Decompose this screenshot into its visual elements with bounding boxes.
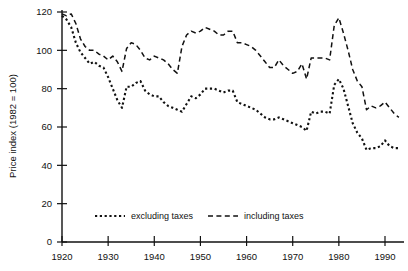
axes-group: [62, 10, 404, 242]
x-axis-ticks: [62, 236, 385, 246]
y-tick-label-0: 0: [47, 236, 52, 247]
x-tick-label-1920: 1920: [51, 251, 72, 262]
y-tick-label-40: 40: [41, 160, 52, 171]
chart-canvas: 020406080100120 192019301940195019601970…: [0, 0, 408, 271]
y-tick-label-100: 100: [36, 45, 52, 56]
x-tick-label-1950: 1950: [190, 251, 211, 262]
y-tick-label-80: 80: [41, 83, 52, 94]
x-tick-label-1960: 1960: [236, 251, 257, 262]
y-tick-label-60: 60: [41, 121, 52, 132]
series-line-excluding-taxes: [62, 16, 399, 150]
x-tick-label-1980: 1980: [328, 251, 349, 262]
data-series-group: [62, 14, 399, 150]
x-tick-label-1940: 1940: [144, 251, 165, 262]
legend-label-excluding-taxes: excluding taxes: [131, 211, 194, 221]
x-tick-label-1970: 1970: [282, 251, 303, 262]
x-tick-label-1930: 1930: [98, 251, 119, 262]
y-tick-label-120: 120: [36, 6, 52, 17]
x-tick-label-1990: 1990: [374, 251, 395, 262]
legend-label-including-taxes: including taxes: [244, 211, 304, 221]
series-line-including-taxes: [62, 14, 399, 118]
y-axis-tick-labels: 020406080100120: [36, 6, 52, 247]
y-tick-label-20: 20: [41, 198, 52, 209]
chart-legend: excluding taxesincluding taxes: [95, 211, 304, 221]
x-axis-tick-labels: 19201930194019501960197019801990: [51, 251, 395, 262]
price-index-figure: 020406080100120 192019301940195019601970…: [0, 0, 408, 271]
y-axis-label: Price index (1982 = 100): [7, 74, 18, 178]
